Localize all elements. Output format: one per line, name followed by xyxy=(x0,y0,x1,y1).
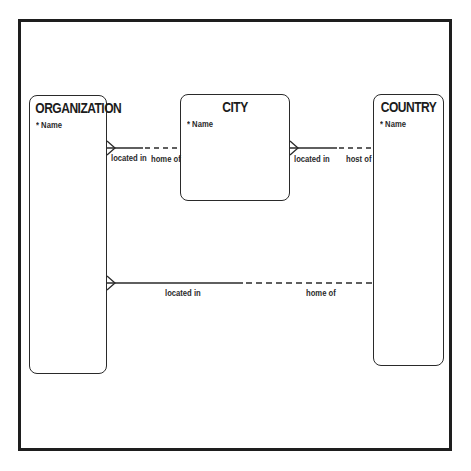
attribute-name: * Name xyxy=(36,120,62,130)
entity-title: COUNTRY xyxy=(379,99,438,115)
entity-country[interactable]: COUNTRY * Name xyxy=(373,94,444,366)
relationship-label: home of xyxy=(306,288,336,298)
relationship-city-country[interactable] xyxy=(290,141,373,155)
relationship-label: home of xyxy=(151,154,181,164)
relationship-label: located in xyxy=(111,153,147,163)
entity-title: CITY xyxy=(189,99,282,115)
relationship-label: located in xyxy=(294,154,330,164)
relationship-label: host of xyxy=(346,154,372,164)
relationship-label: located in xyxy=(165,288,201,298)
entity-organization[interactable]: ORGANIZATION * Name xyxy=(29,95,107,374)
entity-city[interactable]: CITY * Name xyxy=(180,94,290,201)
attribute-name: * Name xyxy=(380,119,406,129)
entity-title: ORGANIZATION xyxy=(35,100,100,116)
attribute-name: * Name xyxy=(187,119,213,129)
